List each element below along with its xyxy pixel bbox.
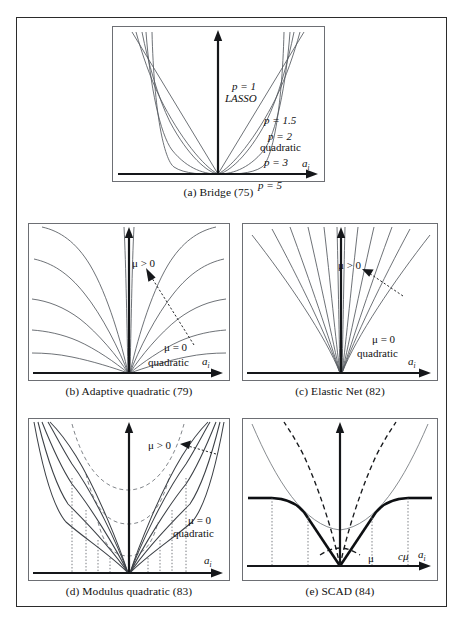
- mu-increase-arrow-head: [180, 441, 191, 449]
- figure-outer-frame: p = 1 LASSO p = 1.5 p = 2 quadratic p = …: [16, 17, 447, 607]
- panel-d-yaxis-arrowhead: [125, 422, 133, 433]
- panel-e-yaxis-arrowhead: [336, 422, 344, 433]
- panel-a-xaxis-label: ai: [302, 157, 310, 172]
- panel-e-xaxis-label: ai: [418, 548, 426, 563]
- label-mu-equals-zero: μ = 0: [372, 333, 396, 345]
- label-quadratic: quadratic: [260, 141, 301, 153]
- panel-a-svg: p = 1 LASSO p = 1.5 p = 2 quadratic p = …: [112, 26, 325, 182]
- label-mu-equals-zero: μ = 0: [188, 514, 212, 526]
- panel-c-xaxis-label: ai: [408, 355, 416, 370]
- label-quadratic: quadratic: [148, 356, 189, 368]
- panel-e-svg: μ cμ ai: [242, 418, 438, 581]
- label-mu-greater-zero: μ > 0: [148, 439, 172, 451]
- panel-b-svg: μ > 0 μ = 0 quadratic ai: [28, 223, 230, 381]
- panel-c-xaxis-arrowhead: [419, 368, 431, 377]
- panel-b-caption: (b) Adaptive quadratic (79): [28, 385, 230, 397]
- label-quadratic: quadratic: [173, 527, 214, 539]
- panel-d-modulus-quadratic: μ > 0 μ = 0 quadratic ai (d) Modulus qua…: [28, 418, 230, 603]
- panel-d-caption: (d) Modulus quadratic (83): [28, 585, 230, 597]
- label-mu-greater-zero: μ > 0: [132, 257, 156, 269]
- label-mu-equals-zero: μ = 0: [164, 341, 188, 353]
- mu-increase-arrow-head: [146, 268, 156, 282]
- panel-e-caption: (e) SCAD (84): [242, 585, 438, 597]
- panel-b-xaxis-arrowhead: [211, 368, 223, 377]
- label-lasso: LASSO: [224, 92, 257, 104]
- mu-increase-arrow-line: [150, 275, 194, 345]
- label-p-equals-1point5: p = 1.5: [263, 114, 297, 126]
- panel-c-elastic-net: μ > 0 μ = 0 quadratic ai (c) Elastic Net…: [242, 223, 438, 403]
- panel-d-svg: μ > 0 μ = 0 quadratic ai: [28, 418, 230, 581]
- panel-b-adaptive-quadratic: μ > 0 μ = 0 quadratic ai (b) Adaptive qu…: [28, 223, 230, 403]
- panel-a-yaxis-arrowhead: [214, 30, 222, 41]
- label-c-mu: cμ: [398, 550, 409, 562]
- label-mu-greater-zero: μ > 0: [338, 259, 362, 271]
- label-p-equals-3: p = 3: [263, 156, 288, 168]
- label-mu: μ: [368, 552, 374, 564]
- label-quadratic: quadratic: [357, 347, 398, 359]
- mu-increase-arrow-line: [369, 273, 403, 296]
- panel-b-xaxis-label: ai: [202, 355, 210, 370]
- panel-a-bridge: p = 1 LASSO p = 1.5 p = 2 quadratic p = …: [112, 26, 325, 204]
- figure-root: p = 1 LASSO p = 1.5 p = 2 quadratic p = …: [0, 0, 464, 623]
- panel-a-caption: (a) Bridge (75): [112, 186, 325, 198]
- panel-c-yaxis-arrowhead: [337, 227, 345, 238]
- panel-d-xaxis-label: ai: [204, 554, 212, 569]
- panel-b-yaxis-arrowhead: [125, 227, 133, 238]
- panel-c-svg: μ > 0 μ = 0 quadratic ai: [242, 223, 438, 381]
- panel-d-xaxis-arrowhead: [211, 568, 223, 577]
- label-p-equals-1: p = 1: [231, 80, 256, 92]
- panel-c-caption: (c) Elastic Net (82): [242, 385, 438, 397]
- panel-e-scad: μ cμ ai (e) SCAD (84): [242, 418, 438, 603]
